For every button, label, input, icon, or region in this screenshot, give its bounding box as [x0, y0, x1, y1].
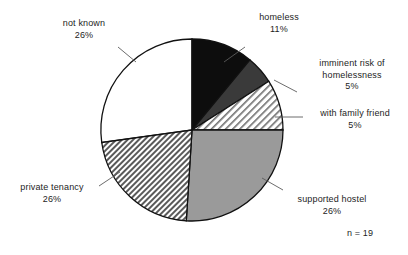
pie-label-not-known-text: not known [63, 18, 105, 28]
pie-label-supported-hostel-text: supported hostel [298, 194, 367, 204]
pie-label-family-friend: with family friend 5% [306, 108, 404, 131]
pie-label-homeless-pct: 11% [246, 24, 312, 36]
pie-label-not-known-pct: 26% [44, 30, 124, 42]
leader-imminent-risk [274, 80, 297, 92]
pie-slice-not-known[interactable] [101, 39, 192, 143]
pie-slice-supported-hostel[interactable] [186, 130, 283, 221]
sample-size-note: n = 19 [330, 228, 390, 240]
pie-label-supported-hostel-pct: 26% [284, 206, 380, 218]
pie-label-imminent-risk-line1: imminent risk of [319, 58, 384, 68]
pie-label-imminent-risk-pct: 5% [300, 81, 404, 93]
pie-label-not-known: not known 26% [44, 18, 124, 41]
pie-label-private-tenancy-text: private tenancy [20, 182, 83, 192]
leader-not-known [118, 47, 136, 62]
pie-slices [101, 39, 283, 221]
pie-chart: not known 26% homeless 11% imminent risk… [0, 0, 408, 255]
pie-label-supported-hostel: supported hostel 26% [284, 194, 380, 217]
pie-label-family-friend-pct: 5% [306, 120, 404, 132]
pie-label-private-tenancy: private tenancy 26% [6, 182, 98, 205]
pie-label-homeless-text: homeless [259, 12, 299, 22]
pie-label-imminent-risk-line2: homelessness [300, 70, 404, 82]
pie-label-family-friend-text: with family friend [320, 108, 390, 118]
pie-label-private-tenancy-pct: 26% [6, 194, 98, 206]
pie-label-imminent-risk: imminent risk of homelessness 5% [300, 58, 404, 93]
pie-label-homeless: homeless 11% [246, 12, 312, 35]
